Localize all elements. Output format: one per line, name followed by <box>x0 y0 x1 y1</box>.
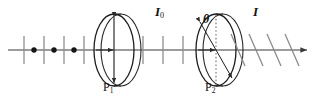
label-polarizer-1-symbol: P <box>103 80 110 94</box>
unpolarized-dot-2 <box>51 47 56 52</box>
label-transmitted-intensity: I <box>253 5 258 18</box>
unpolarized-light-group <box>24 36 84 64</box>
label-polarizer-2: P2 <box>205 81 215 94</box>
label-polarizer-2-subscript: 2 <box>212 86 216 95</box>
unpolarized-dot-3 <box>71 47 76 52</box>
label-polarizer-1: P1 <box>103 81 113 94</box>
label-incident-intensity: I0 <box>155 5 164 20</box>
label-angle-theta: θ <box>203 13 209 25</box>
polarizer-1 <box>94 14 141 86</box>
label-incident-intensity-subscript: 0 <box>160 11 164 20</box>
optics-polarization-figure: I0 I θ P1 P2 <box>0 0 321 101</box>
unpolarized-dot-1 <box>31 47 36 52</box>
label-polarizer-1-subscript: 1 <box>110 86 114 95</box>
label-polarizer-2-symbol: P <box>205 80 212 94</box>
